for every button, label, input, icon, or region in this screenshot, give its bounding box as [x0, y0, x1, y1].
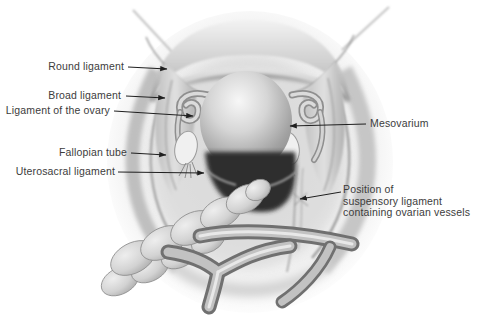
label-uterosacral-ligament: Uterosacral ligament	[16, 166, 115, 178]
round-ligament-leader	[128, 67, 167, 69]
broad-ligament-leader	[126, 96, 165, 98]
label-round-ligament: Round ligament	[48, 61, 124, 73]
label-fallopian-tube: Fallopian tube	[59, 147, 127, 159]
fallopian-tube-leader	[131, 153, 166, 155]
label-broad-ligament: Broad ligament	[48, 90, 121, 102]
label-ligament-of-the-ovary: Ligament of the ovary	[6, 105, 110, 117]
suspensory-ligament-leader	[300, 192, 341, 199]
label-suspensory-ligament: Position of suspensory ligament containi…	[343, 184, 470, 219]
ligament-of-ovary-leader	[114, 111, 193, 116]
figure-canvas: Round ligament Broad ligament Ligament o…	[0, 0, 477, 316]
label-mesovarium: Mesovarium	[370, 118, 429, 130]
uterosacral-ligament-leader	[118, 172, 204, 173]
mesovarium-leader	[290, 124, 366, 126]
